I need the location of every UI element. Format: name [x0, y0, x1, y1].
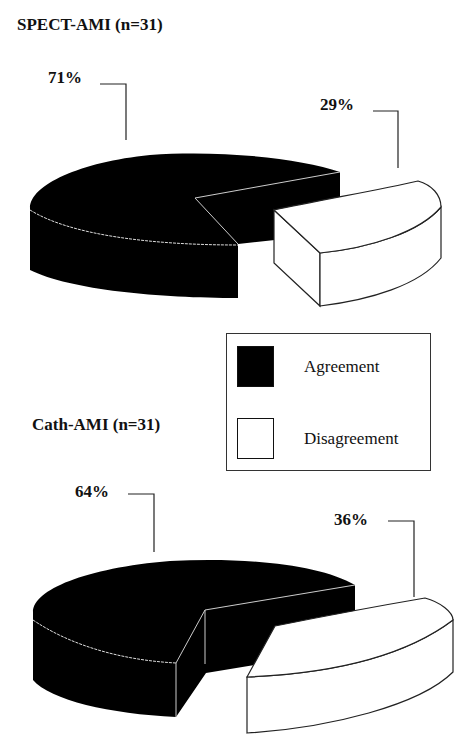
cath-pie — [33, 494, 453, 733]
legend-item-agreement: Agreement — [237, 346, 380, 387]
legend-swatch-agreement — [237, 346, 274, 387]
chart-legend: Agreement Disagreement — [226, 333, 431, 471]
legend-label-disagreement: Disagreement — [304, 429, 398, 449]
spect-leader-lines — [100, 84, 398, 168]
spect-pie — [30, 84, 441, 306]
legend-label-agreement: Agreement — [304, 357, 380, 377]
legend-item-disagreement: Disagreement — [237, 418, 398, 459]
legend-swatch-disagreement — [237, 418, 274, 459]
